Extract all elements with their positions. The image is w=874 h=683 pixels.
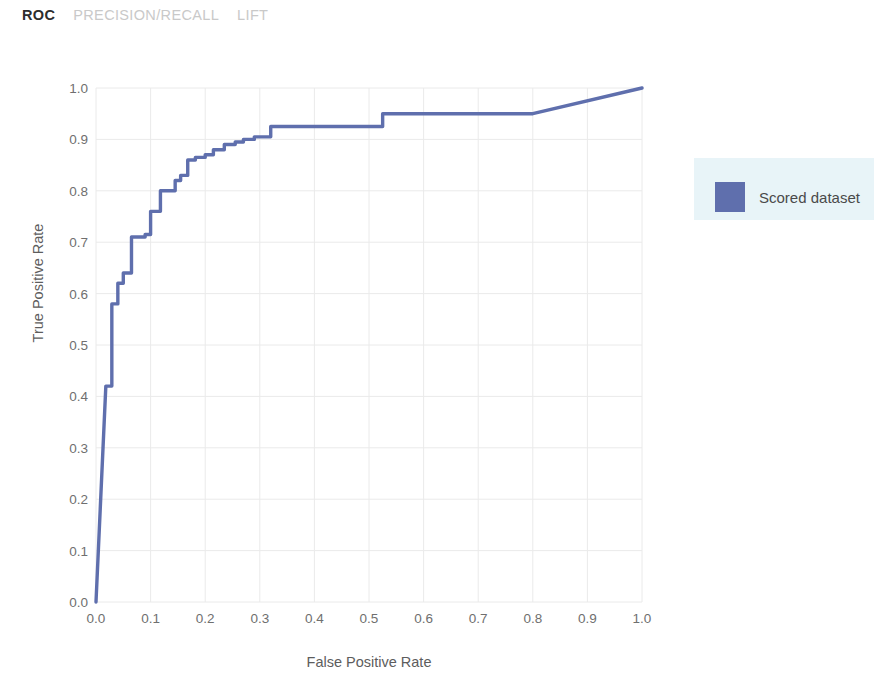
x-tick-label: 0.2 — [175, 611, 235, 626]
legend: Scored dataset — [715, 182, 860, 212]
x-tick-label: 0.4 — [284, 611, 344, 626]
roc-curve — [96, 88, 642, 602]
y-tick-label: 0.7 — [42, 235, 88, 250]
tab-bar: ROC PRECISION/RECALL LIFT — [0, 0, 874, 30]
legend-label-scored-dataset: Scored dataset — [759, 189, 860, 206]
x-tick-label: 0.3 — [230, 611, 290, 626]
tab-precision-recall[interactable]: PRECISION/RECALL — [73, 7, 219, 23]
roc-curve-path — [96, 88, 642, 602]
y-tick-label: 0.9 — [42, 132, 88, 147]
legend-swatch-scored-dataset — [715, 182, 745, 212]
x-tick-label: 0.6 — [394, 611, 454, 626]
roc-chart: 0.00.10.20.30.40.50.60.70.80.91.0 0.00.1… — [0, 30, 874, 683]
x-tick-label: 1.0 — [612, 611, 672, 626]
y-axis-title: True Positive Rate — [30, 183, 46, 383]
y-tick-label: 0.3 — [42, 440, 88, 455]
y-tick-label: 0.1 — [42, 543, 88, 558]
plot-wrapper: 0.00.10.20.30.40.50.60.70.80.91.0 0.00.1… — [0, 30, 700, 683]
y-tick-label: 0.4 — [42, 389, 88, 404]
x-tick-label: 0.1 — [121, 611, 181, 626]
x-tick-label: 0.8 — [503, 611, 563, 626]
y-tick-label: 1.0 — [42, 81, 88, 96]
plot-area — [96, 88, 642, 602]
y-tick-label: 0.6 — [42, 286, 88, 301]
y-tick-label: 0.5 — [42, 338, 88, 353]
x-tick-label: 0.5 — [339, 611, 399, 626]
x-tick-label: 0.9 — [557, 611, 617, 626]
x-tick-label: 0.7 — [448, 611, 508, 626]
x-tick-label: 0.0 — [66, 611, 126, 626]
y-tick-label: 0.0 — [42, 595, 88, 610]
y-tick-label: 0.2 — [42, 492, 88, 507]
tab-lift[interactable]: LIFT — [237, 7, 268, 23]
x-axis-title: False Positive Rate — [96, 654, 642, 670]
y-tick-label: 0.8 — [42, 183, 88, 198]
tab-roc[interactable]: ROC — [22, 7, 55, 23]
